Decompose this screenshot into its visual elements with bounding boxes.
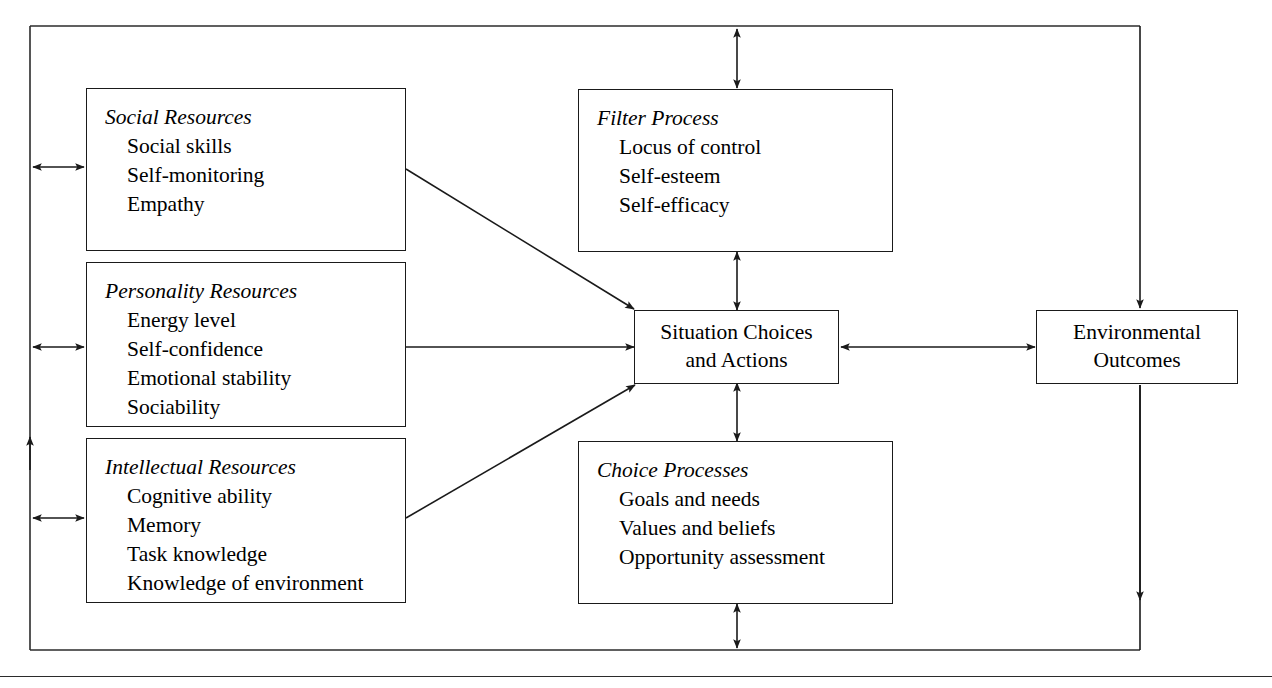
list-item: Energy level (127, 306, 405, 335)
label-line-2: and Actions (660, 347, 812, 375)
list-item: Opportunity assessment (619, 543, 892, 572)
list-item: Sociability (127, 393, 405, 422)
node-items-choice-processes: Goals and needs Values and beliefs Oppor… (597, 485, 892, 572)
list-item: Self-confidence (127, 335, 405, 364)
node-label-situation-choices: Situation Choices and Actions (660, 319, 812, 375)
node-label-environmental-outcomes: Environmental Outcomes (1073, 319, 1201, 375)
list-item: Memory (127, 511, 405, 540)
list-item: Emotional stability (127, 364, 405, 393)
list-item: Self-esteem (619, 162, 892, 191)
label-line-1: Situation Choices (660, 319, 812, 347)
list-item: Self-efficacy (619, 191, 892, 220)
label-line-2: Outcomes (1073, 347, 1201, 375)
list-item: Values and beliefs (619, 514, 892, 543)
node-title-choice-processes: Choice Processes (597, 456, 892, 485)
node-personality-resources: Personality Resources Energy level Self-… (86, 262, 406, 427)
node-title-filter-process: Filter Process (597, 104, 892, 133)
page-baseline-rule (0, 676, 1272, 677)
list-item: Goals and needs (619, 485, 892, 514)
node-title-personality-resources: Personality Resources (105, 277, 405, 306)
list-item: Task knowledge (127, 540, 405, 569)
node-filter-process: Filter Process Locus of control Self-est… (578, 89, 893, 252)
node-situation-choices-and-actions: Situation Choices and Actions (634, 310, 839, 384)
node-choice-processes: Choice Processes Goals and needs Values … (578, 441, 893, 604)
node-items-social-resources: Social skills Self-monitoring Empathy (105, 132, 405, 219)
list-item: Empathy (127, 190, 405, 219)
list-item: Knowledge of environment (127, 569, 405, 598)
node-social-resources: Social Resources Social skills Self-moni… (86, 88, 406, 251)
node-intellectual-resources: Intellectual Resources Cognitive ability… (86, 438, 406, 603)
node-items-intellectual-resources: Cognitive ability Memory Task knowledge … (105, 482, 405, 598)
node-title-intellectual-resources: Intellectual Resources (105, 453, 405, 482)
node-title-social-resources: Social Resources (105, 103, 405, 132)
flow-diagram: Social Resources Social skills Self-moni… (0, 0, 1272, 688)
node-items-personality-resources: Energy level Self-confidence Emotional s… (105, 306, 405, 422)
node-items-filter-process: Locus of control Self-esteem Self-effica… (597, 133, 892, 220)
list-item: Self-monitoring (127, 161, 405, 190)
list-item: Cognitive ability (127, 482, 405, 511)
node-environmental-outcomes: Environmental Outcomes (1036, 310, 1238, 384)
label-line-1: Environmental (1073, 319, 1201, 347)
list-item: Social skills (127, 132, 405, 161)
list-item: Locus of control (619, 133, 892, 162)
